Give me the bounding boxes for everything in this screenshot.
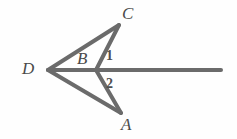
geometry-figure: D C A B 1 2 (0, 0, 237, 139)
vertex-label-d: D (22, 60, 34, 77)
geometry-canvas (0, 0, 237, 139)
vertex-label-b: B (77, 50, 87, 67)
angle-label-1: 1 (106, 49, 113, 63)
angle-label-2: 2 (106, 77, 113, 91)
vertex-label-a: A (121, 116, 131, 133)
vertex-label-c: C (122, 5, 133, 22)
